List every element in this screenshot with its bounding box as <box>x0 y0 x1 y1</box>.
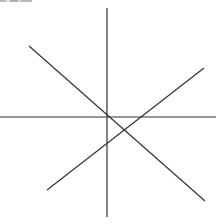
diagonal-line-ascending <box>47 68 204 190</box>
line-diagram <box>0 0 222 224</box>
diagonal-line-descending <box>29 46 205 201</box>
